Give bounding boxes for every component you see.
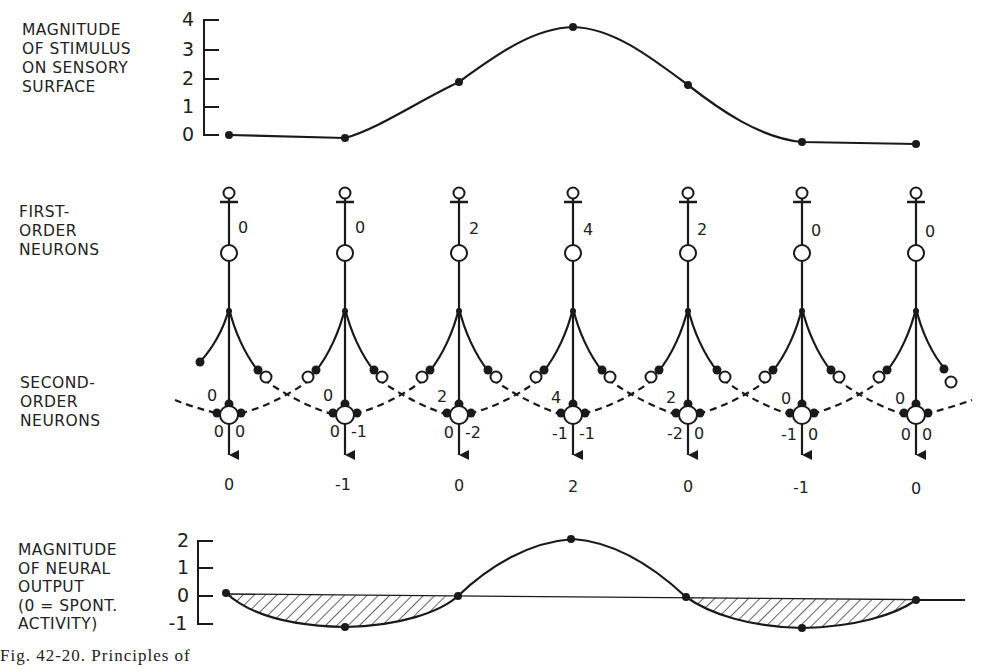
output-value-4: 2 — [568, 477, 578, 496]
first-order-neuron — [451, 245, 467, 261]
neuron-column-1 — [196, 188, 272, 456]
inhib-left-value-3: 0 — [444, 423, 454, 442]
excitation-value-1: 0 — [207, 386, 217, 405]
first-order-value-1: 0 — [238, 218, 248, 237]
first-order-value-3: 2 — [469, 219, 479, 238]
first-order-value-4: 4 — [583, 220, 593, 239]
excitation-value-6: 0 — [781, 389, 791, 408]
lateral-inhibition-diagram: 4 3 2 1 0 — [0, 0, 991, 669]
stimulus-tick-2: 2 — [182, 67, 194, 89]
output-value-5: 0 — [683, 477, 693, 496]
output-y-axis — [198, 540, 213, 625]
stimulus-curve — [229, 27, 916, 144]
first-order-neuron — [337, 245, 353, 261]
excitation-value-2: 0 — [323, 386, 333, 405]
excitation-value-7: 0 — [895, 389, 905, 408]
inhib-right-value-7: 0 — [922, 425, 932, 444]
excitation-value-5: 2 — [666, 388, 676, 407]
second-order-neuron — [907, 406, 925, 424]
output-value-7: 0 — [911, 479, 921, 498]
first-order-value-5: 2 — [697, 220, 707, 239]
neuron-column-4 — [531, 188, 616, 456]
inhib-left-value-1: 0 — [214, 422, 224, 441]
inhib-left-value-7: 0 — [901, 425, 911, 444]
first-order-neuron — [565, 245, 581, 261]
excitation-value-4: 4 — [551, 388, 561, 407]
output-value-1: 0 — [224, 475, 234, 494]
inhib-left-value-4: -1 — [552, 424, 568, 443]
output-tick-2: 2 — [177, 529, 189, 551]
output-chart: 2 1 0 -1 — [169, 529, 965, 634]
first-order-neuron — [221, 245, 237, 261]
stimulus-data-points — [225, 23, 920, 148]
output-tick-0: 0 — [177, 584, 189, 606]
inhib-left-value-6: -1 — [781, 425, 797, 444]
inhib-left-value-5: -2 — [667, 424, 683, 443]
inhib-right-value-1: 0 — [235, 422, 245, 441]
second-order-neuron — [564, 406, 582, 424]
stimulus-tick-1: 1 — [182, 95, 194, 117]
stimulus-tick-0: 0 — [182, 123, 194, 145]
stimulus-tick-3: 3 — [182, 38, 194, 60]
output-value-3: 0 — [454, 476, 464, 495]
neuron-column-6 — [760, 188, 845, 456]
first-order-value-2: 0 — [355, 218, 365, 237]
first-order-neuron — [908, 245, 924, 261]
neuron-column-3 — [417, 188, 502, 456]
inhib-left-value-2: 0 — [330, 422, 340, 441]
second-order-neuron — [450, 406, 468, 424]
stimulus-chart: 4 3 2 1 0 — [182, 8, 920, 148]
second-order-neuron — [679, 406, 697, 424]
first-order-neuron — [794, 245, 810, 261]
inhib-right-value-2: -1 — [351, 422, 367, 441]
output-tick-1: 1 — [177, 556, 189, 578]
inhib-right-value-6: 0 — [808, 425, 818, 444]
stimulus-tick-4: 4 — [182, 8, 194, 30]
inhib-right-value-4: -1 — [579, 424, 595, 443]
neuron-column-5 — [646, 188, 731, 456]
neuron-column-7 — [874, 188, 957, 456]
inhibition-hatched-area-right — [686, 597, 916, 628]
output-value-6: -1 — [793, 478, 809, 497]
first-order-value-7: 0 — [925, 222, 935, 241]
inhib-right-value-5: 0 — [694, 424, 704, 443]
stimulus-y-axis — [204, 19, 219, 136]
second-order-neuron — [793, 406, 811, 424]
inhibition-hatched-area-left — [228, 594, 458, 627]
first-order-value-6: 0 — [811, 221, 821, 240]
neuron-column-2 — [303, 188, 388, 456]
first-order-neuron — [680, 245, 696, 261]
output-tick-neg1: -1 — [169, 612, 188, 634]
excitation-value-3: 2 — [437, 387, 447, 406]
inhib-right-value-3: -2 — [465, 423, 481, 442]
output-value-2: -1 — [335, 475, 351, 494]
